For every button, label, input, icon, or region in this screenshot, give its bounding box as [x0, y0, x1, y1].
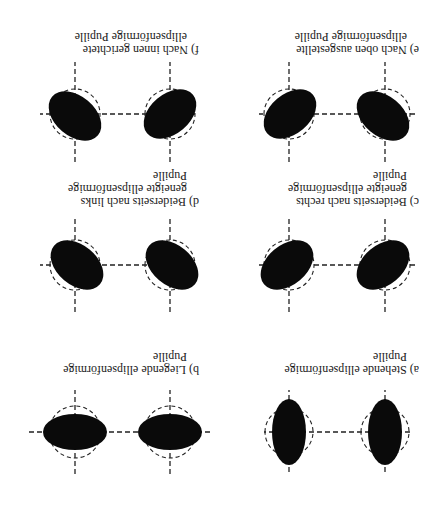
caption-d-line-1: d) Beiderseits nach links [68, 195, 199, 208]
caption-d-line-2: geneigte ellipsenförmige [68, 182, 199, 195]
caption-e-line-1: e) Nach oben ausgestellte [295, 43, 419, 56]
caption-f-line-2: ellipsenförmige Pupille [75, 30, 199, 43]
panel-e-pupils [254, 62, 419, 162]
panel-b-pupils [29, 390, 210, 474]
pupil-left-b [138, 414, 202, 450]
caption-d-line-3: Pupille [68, 169, 199, 182]
caption-b-line-1: b) Liegende ellipsenförmige [63, 363, 199, 376]
caption-f: f) Nach innen gerichtete ellipsenförmige… [75, 30, 199, 56]
panel-c-pupils [251, 217, 419, 312]
caption-c-line-2: geneigte ellipsenförmige [288, 182, 419, 195]
pupil-right-a [272, 399, 306, 465]
pupil-right-b [43, 414, 107, 450]
caption-a: a) Stehende ellipsenförmige Pupille [284, 350, 419, 376]
pupil-diagram-canvas [0, 0, 435, 522]
pupil-left-a [368, 399, 402, 465]
caption-c: c) Beiderseits nach rechts geneigte elli… [288, 169, 419, 208]
caption-a-line-1: a) Stehende ellipsenförmige [284, 363, 419, 376]
caption-c-line-3: Pupille [288, 169, 419, 182]
panel-f-pupils [39, 62, 206, 162]
caption-e: e) Nach oben ausgestellte ellipsenförmig… [295, 30, 419, 56]
pupil-shapes-figure: a) Stehende ellipsenförmige Pupille b) L… [0, 0, 435, 522]
caption-c-line-1: c) Beiderseits nach rechts [288, 195, 419, 208]
panel-a-pupils [264, 390, 410, 472]
caption-d: d) Beiderseits nach links geneigte ellip… [68, 169, 199, 208]
caption-e-line-2: ellipsenförmige Pupille [295, 30, 419, 43]
panel-d-pupils [40, 217, 208, 312]
caption-a-line-2: Pupille [284, 350, 419, 363]
caption-b: b) Liegende ellipsenförmige Pupille [63, 350, 199, 376]
caption-f-line-1: f) Nach innen gerichtete [75, 43, 199, 56]
pupil-left-e [347, 81, 419, 150]
caption-b-line-2: Pupille [63, 350, 199, 363]
